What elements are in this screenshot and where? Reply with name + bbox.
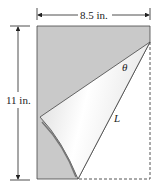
height-label: 11 in. <box>6 94 31 106</box>
length-label: L <box>113 112 120 124</box>
angle-label: θ <box>122 61 128 73</box>
width-label: 8.5 in. <box>80 9 108 21</box>
folded-paper-diagram: 8.5 in. 11 in. θ L <box>0 0 160 187</box>
